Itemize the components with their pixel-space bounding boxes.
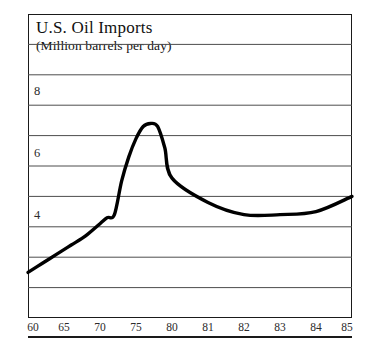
- chart-page: U.S. Oil Imports (Million barrels per da…: [0, 0, 380, 353]
- x-tick-label: 70: [94, 322, 106, 334]
- y-tick-label: 6: [34, 147, 40, 160]
- gridlines: [28, 44, 352, 287]
- series-lines: [28, 123, 352, 272]
- x-tick-label: 83: [274, 322, 286, 334]
- x-tick-label: 80: [166, 322, 178, 334]
- chart-plot-area: [0, 0, 380, 353]
- x-tick-label: 75: [130, 322, 142, 334]
- y-tick-label: 4: [34, 209, 40, 222]
- y-tick-label: 8: [34, 85, 40, 98]
- x-tick-label: 82: [238, 322, 250, 334]
- x-axis-rule: [28, 336, 352, 338]
- x-tick-label: 81: [202, 322, 214, 334]
- x-tick-label: 65: [58, 322, 70, 334]
- x-tick-label: 85: [341, 322, 353, 334]
- x-axis-labels: 60657075808182838485: [28, 318, 352, 336]
- x-tick-label: 84: [310, 322, 322, 334]
- series-line: [28, 123, 352, 272]
- x-tick-label: 60: [27, 322, 39, 334]
